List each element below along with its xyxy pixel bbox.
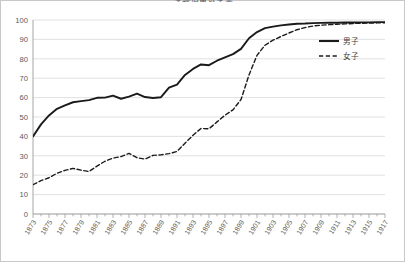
x-axis-tick-label: 1895 [199, 219, 213, 236]
y-axis-tick-label: 50 [20, 113, 28, 122]
x-axis-tick-label: 1905 [279, 219, 293, 236]
y-axis-tick-label: 60 [20, 93, 28, 102]
y-axis-tick-label: 70 [20, 74, 28, 83]
x-axis-tick-label: 1877 [55, 219, 69, 236]
x-axis-tick-label: 1899 [231, 219, 245, 236]
x-axis-tick-label: 1909 [311, 219, 325, 236]
x-axis-tick-label: 1885 [119, 219, 133, 236]
x-axis-tick-label: 1893 [183, 219, 197, 236]
y-axis-tick-label: 20 [20, 171, 28, 180]
y-axis-tick-label: 100 [15, 16, 28, 25]
x-axis-tick-label: 1891 [167, 219, 181, 236]
legend-label-male: 男子 [343, 37, 359, 46]
chart-frame: 学齢児童就学率 01020304050607080901001873187518… [0, 0, 405, 262]
y-axis-tick-label: 40 [20, 132, 28, 141]
x-axis-tick-label: 1889 [151, 219, 165, 236]
x-axis-tick-label: 1897 [215, 219, 229, 236]
x-axis-tick-label: 1879 [71, 219, 85, 236]
x-axis-tick-label: 1915 [359, 219, 373, 236]
x-axis-tick-label: 1873 [23, 219, 37, 236]
y-axis-tick-label: 90 [20, 35, 28, 44]
legend-label-female: 女子 [343, 51, 359, 61]
x-axis-tick-label: 1911 [327, 219, 341, 236]
x-axis-tick-label: 1887 [135, 219, 149, 236]
x-axis-tick-label: 1881 [87, 219, 101, 236]
y-axis-tick-label: 0 [24, 210, 28, 219]
y-axis-tick-label: 80 [20, 55, 28, 64]
y-axis-tick-label: 30 [20, 152, 28, 161]
x-axis-tick-label: 1907 [295, 219, 309, 236]
x-axis-tick-label: 1913 [343, 219, 357, 236]
y-axis-tick-label: 10 [20, 190, 28, 199]
x-axis-tick-label: 1903 [263, 219, 277, 236]
x-axis-tick-label: 1883 [103, 219, 117, 236]
x-axis-tick-label: 1901 [247, 219, 261, 236]
x-axis-tick-label: 1875 [39, 219, 53, 236]
x-axis-tick-label: 1917 [375, 219, 389, 236]
chart-plot: 0102030405060708090100187318751877187918… [1, 1, 405, 262]
